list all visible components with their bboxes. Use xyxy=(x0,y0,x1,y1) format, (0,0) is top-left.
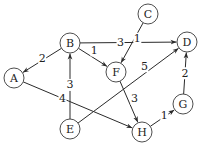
node-label: E xyxy=(66,123,74,136)
node-label: G xyxy=(179,98,188,111)
edge-weight-label: 1 xyxy=(161,109,168,122)
node-b: B xyxy=(60,33,80,53)
node-label: H xyxy=(137,126,147,139)
node-label: F xyxy=(112,66,120,79)
nodes-layer: ABCDEFGH xyxy=(4,4,197,142)
edge-b-a: 2 xyxy=(23,48,62,72)
node-d: D xyxy=(177,32,197,52)
edge-weight-label: 3 xyxy=(131,92,138,105)
edge-weight-label: 5 xyxy=(141,60,148,73)
node-g: G xyxy=(173,94,193,114)
edges-layer: 2311354312 xyxy=(23,23,189,128)
node-label: A xyxy=(9,72,19,85)
edge-f-h: 3 xyxy=(120,81,139,122)
edge-g-d: 2 xyxy=(181,52,189,94)
edge-b-f: 1 xyxy=(78,44,107,66)
edge-weight-label: 1 xyxy=(134,32,141,45)
node-e: E xyxy=(60,119,80,139)
edge-weight-label: 3 xyxy=(117,36,124,49)
edge-a-h: 4 xyxy=(23,82,132,128)
edge-weight-label: 3 xyxy=(67,78,74,91)
node-label: B xyxy=(66,37,74,50)
node-label: D xyxy=(183,36,192,49)
node-c: C xyxy=(138,4,158,24)
node-label: C xyxy=(144,8,152,21)
edge-h-g: 1 xyxy=(150,109,174,127)
edge-weight-label: 2 xyxy=(39,52,46,65)
node-f: F xyxy=(106,62,126,82)
edge-weight-label: 1 xyxy=(91,44,98,57)
edge-arrow-line xyxy=(23,82,132,128)
edge-weight-label: 2 xyxy=(181,67,188,80)
edge-arrow-line xyxy=(80,42,177,43)
edge-weight-label: 4 xyxy=(59,92,66,105)
graph-diagram: 2311354312 ABCDEFGH xyxy=(0,0,203,146)
node-a: A xyxy=(4,68,24,88)
node-h: H xyxy=(132,122,152,142)
edge-e-b: 3 xyxy=(66,54,74,120)
